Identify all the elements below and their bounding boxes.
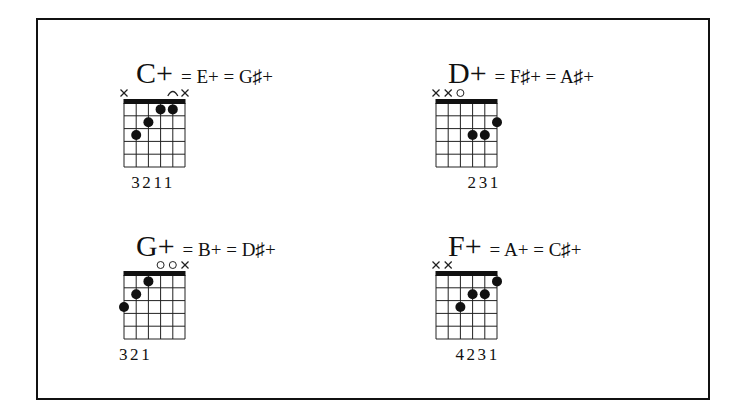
finger-dot bbox=[492, 276, 502, 286]
fretboard-grid bbox=[430, 257, 510, 337]
open-string-icon bbox=[457, 90, 464, 97]
chord-title: C+= E+ = G♯+ bbox=[136, 58, 273, 88]
finger-dot bbox=[143, 117, 153, 127]
finger-dot bbox=[480, 289, 490, 299]
fingering-numbers: 321 bbox=[119, 345, 152, 365]
tie-arc-icon bbox=[168, 92, 178, 97]
finger-dot bbox=[468, 130, 478, 140]
finger-dot bbox=[468, 289, 478, 299]
finger-dot bbox=[455, 302, 465, 312]
muted-string-icon bbox=[433, 262, 440, 269]
finger-dot bbox=[131, 130, 141, 140]
fretboard-grid bbox=[430, 85, 510, 165]
nut-bar bbox=[436, 271, 498, 276]
finger-dot bbox=[119, 302, 129, 312]
nut-bar bbox=[124, 99, 186, 104]
fretboard-grid bbox=[118, 85, 198, 165]
fretboard-grid bbox=[118, 257, 198, 337]
open-string-icon bbox=[157, 262, 164, 269]
muted-string-icon bbox=[182, 262, 189, 269]
muted-string-icon bbox=[182, 90, 189, 97]
fingering-numbers: 3211 bbox=[131, 173, 175, 193]
finger-dot bbox=[168, 104, 178, 114]
muted-string-icon bbox=[445, 90, 452, 97]
finger-dot bbox=[492, 117, 502, 127]
finger-dot bbox=[480, 130, 490, 140]
chord-title: D+= F♯+ = A♯+ bbox=[448, 58, 594, 88]
chord-equivalents: = E+ = G♯+ bbox=[181, 66, 273, 87]
finger-dot bbox=[143, 276, 153, 286]
muted-string-icon bbox=[121, 90, 128, 97]
open-string-icon bbox=[169, 262, 176, 269]
chord-equivalents: = F♯+ = A♯+ bbox=[495, 66, 594, 87]
finger-dot bbox=[156, 104, 166, 114]
nut-bar bbox=[436, 99, 498, 104]
finger-dot bbox=[131, 289, 141, 299]
fingering-numbers: 231 bbox=[468, 173, 501, 193]
muted-string-icon bbox=[445, 262, 452, 269]
nut-bar bbox=[124, 271, 186, 276]
muted-string-icon bbox=[433, 90, 440, 97]
fingering-numbers: 4231 bbox=[455, 345, 499, 365]
